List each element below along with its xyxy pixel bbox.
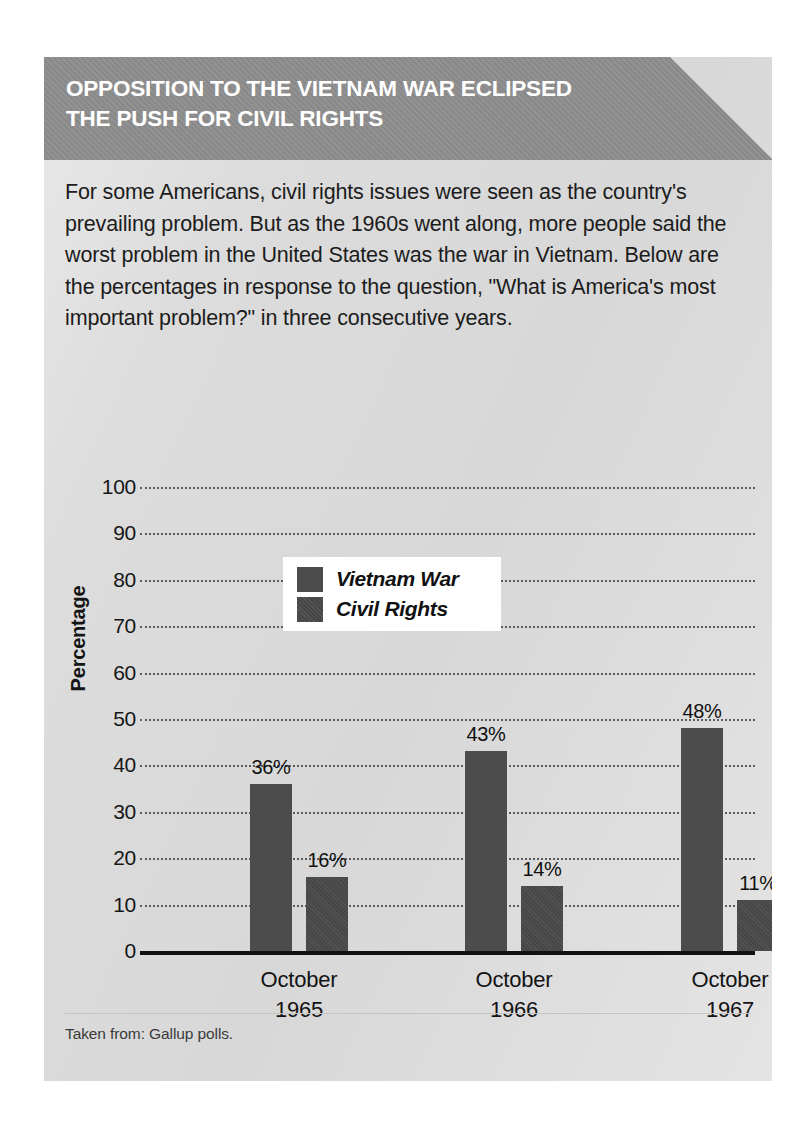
page-root: OPPOSITION TO THE VIETNAM WAR ECLIPSED T… <box>0 0 808 1133</box>
chart-legend: Vietnam War Civil Rights <box>283 557 501 631</box>
source-note: Taken from: Gallup polls. <box>65 1025 233 1043</box>
y-axis-tick-label: 100 <box>66 475 136 499</box>
y-axis-tick-label: 0 <box>66 939 136 963</box>
intro-paragraph: For some Americans, civil rights issues … <box>65 177 745 335</box>
y-axis-tick-label: 30 <box>66 800 136 824</box>
plot-area: 1009080706050403020100 36%16%43%14%48%11… <box>140 487 755 951</box>
gridline <box>140 487 755 489</box>
bar-value-label: 36% <box>234 756 308 779</box>
bar-value-label: 16% <box>290 849 364 872</box>
bar-civil-rights <box>737 900 772 951</box>
gridline <box>140 858 755 860</box>
gridline <box>140 719 755 721</box>
x-axis-baseline <box>140 951 755 955</box>
bar-vietnam-war <box>250 784 292 951</box>
bar-vietnam-war <box>465 751 507 951</box>
bar-value-label: 11% <box>721 872 772 895</box>
page-title: OPPOSITION TO THE VIETNAM WAR ECLIPSED T… <box>66 74 636 134</box>
y-axis-tick-label: 90 <box>66 521 136 545</box>
gridline <box>140 673 755 675</box>
gridline <box>140 533 755 535</box>
legend-swatch-icon-vietnam-war <box>297 567 323 592</box>
x-axis-category-label: October 1967 <box>640 965 772 1025</box>
legend-label-civil-rights: Civil Rights <box>336 597 448 621</box>
legend-label-vietnam-war: Vietnam War <box>336 567 459 591</box>
y-axis-tick-label: 40 <box>66 753 136 777</box>
bar-vietnam-war <box>681 728 723 951</box>
y-axis-tick-label: 60 <box>66 661 136 685</box>
y-axis-tick-label: 80 <box>66 568 136 592</box>
gridline <box>140 765 755 767</box>
x-axis-category-label: October 1965 <box>209 965 389 1025</box>
legend-swatch-icon-civil-rights <box>297 597 323 622</box>
bar-civil-rights <box>306 877 348 951</box>
bar-value-label: 48% <box>665 700 739 723</box>
x-axis-category-label: October 1966 <box>424 965 604 1025</box>
gridline <box>140 812 755 814</box>
bar-civil-rights <box>521 886 563 951</box>
bar-value-label: 43% <box>449 723 523 746</box>
legend-item-vietnam-war: Vietnam War <box>297 564 501 594</box>
bar-value-label: 14% <box>505 858 579 881</box>
footer-divider <box>65 1013 751 1014</box>
y-axis-tick-label: 20 <box>66 846 136 870</box>
y-axis-tick-label: 70 <box>66 614 136 638</box>
gridline <box>140 905 755 907</box>
bar-chart: Percentage 1009080706050403020100 36%16%… <box>44 387 772 1027</box>
legend-item-civil-rights: Civil Rights <box>297 594 501 624</box>
y-axis-tick-label: 10 <box>66 893 136 917</box>
infographic-card: OPPOSITION TO THE VIETNAM WAR ECLIPSED T… <box>44 57 772 1081</box>
y-axis-tick-label: 50 <box>66 707 136 731</box>
